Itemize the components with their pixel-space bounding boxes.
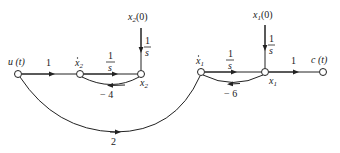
node-u-label: u (t) bbox=[8, 56, 26, 68]
integrator-gain-num: 1 bbox=[108, 50, 113, 61]
integrator-gain-den: s bbox=[108, 62, 112, 73]
edge-x1dot-to-x1: 1 s bbox=[205, 48, 261, 72]
gain-feedback-x1: − 6 bbox=[224, 88, 237, 99]
node-u bbox=[15, 71, 22, 78]
svg-text:s: s bbox=[269, 45, 273, 56]
signal-flow-graph: 1 1 s − 4 x2(0) 1 s 2 1 s bbox=[0, 0, 340, 153]
edge-x2dot-to-x2: 1 s bbox=[84, 50, 137, 74]
gain-x1-to-c: 1 bbox=[291, 55, 296, 66]
node-c bbox=[320, 69, 327, 76]
svg-text:1: 1 bbox=[145, 35, 150, 46]
svg-text:s: s bbox=[228, 60, 232, 71]
edge-x2-initial: x2(0) 1 s bbox=[127, 11, 151, 70]
node-x2dot bbox=[77, 71, 84, 78]
svg-text:s: s bbox=[145, 47, 149, 58]
edge-feedback-x2: − 4 bbox=[82, 77, 139, 100]
edge-feedback-x1: − 6 bbox=[203, 75, 263, 99]
edge-x1-initial: x1(0) 1 s bbox=[252, 9, 275, 68]
gain-u-to-x2dot: 1 bbox=[46, 57, 51, 68]
edge-u-to-x2dot: 1 bbox=[22, 57, 76, 74]
edge-u-to-x1dot: 2 bbox=[20, 76, 200, 147]
node-x1-label: x1 bbox=[268, 75, 277, 88]
svg-text:1: 1 bbox=[228, 48, 233, 59]
svg-text:1: 1 bbox=[269, 33, 274, 44]
gain-u-to-x1dot: 2 bbox=[111, 136, 116, 147]
node-c-label: c (t) bbox=[311, 54, 328, 66]
x1-initial-label: x1(0) bbox=[252, 9, 273, 22]
node-x1dot bbox=[198, 69, 205, 76]
node-x1dot-label: x1 bbox=[195, 55, 204, 68]
x2-initial-label: x2(0) bbox=[127, 11, 148, 24]
node-x2dot-label: x2 bbox=[74, 57, 83, 70]
node-x1 bbox=[262, 69, 269, 76]
gain-feedback-x2: − 4 bbox=[100, 89, 113, 100]
node-x2-label: x2 bbox=[139, 77, 148, 90]
